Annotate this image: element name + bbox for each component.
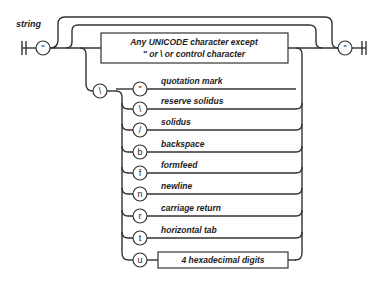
backslash-node: \: [93, 84, 107, 98]
svg-text:" or \ or control character: " or \ or control character: [143, 49, 246, 59]
railroad-diagram: string " Any UNICODE character except " …: [0, 0, 382, 286]
svg-text:4 hexadecimal digits: 4 hexadecimal digits: [180, 255, 264, 265]
end-terminator: [352, 41, 366, 55]
svg-text:": ": [343, 43, 346, 53]
escape-row: \ reserve solidus: [122, 96, 302, 116]
svg-text:r: r: [139, 211, 142, 221]
escape-row: / solidus: [122, 117, 302, 137]
escape-branch-left: [80, 48, 93, 91]
escape-row: n newline: [122, 181, 302, 201]
svg-text:u: u: [137, 255, 142, 265]
svg-text:solidus: solidus: [161, 117, 191, 127]
start-quote-node: ": [36, 41, 50, 55]
svg-text:newline: newline: [161, 181, 192, 191]
svg-text:": ": [41, 43, 44, 53]
start-terminator: [22, 41, 36, 55]
svg-text:n: n: [137, 189, 142, 199]
svg-text:b: b: [137, 147, 142, 157]
svg-text:formfeed: formfeed: [161, 160, 198, 170]
svg-text:": ": [138, 84, 141, 94]
diagram-title: string: [16, 19, 42, 29]
svg-text:quotation mark: quotation mark: [161, 76, 224, 86]
svg-text:backspace: backspace: [161, 139, 205, 149]
escape-row: r carriage return: [122, 203, 302, 223]
svg-text:Any UNICODE character except: Any UNICODE character except: [129, 37, 259, 47]
escape-row: t horizontal tab: [122, 225, 302, 245]
escape-row: b backspace: [122, 139, 302, 159]
svg-text:reserve solidus: reserve solidus: [161, 96, 224, 106]
escape-row: f formfeed: [122, 160, 302, 180]
end-quote-node: ": [338, 41, 352, 55]
svg-text:horizontal tab: horizontal tab: [161, 225, 217, 235]
unicode-char-box: Any UNICODE character except " or \ or c…: [101, 33, 288, 63]
escape-row: " quotation mark: [133, 76, 296, 96]
escape-row-unicode: u 4 hexadecimal digits: [129, 252, 296, 268]
escape-rail-right: [295, 48, 302, 260]
svg-text:carriage return: carriage return: [161, 203, 221, 213]
